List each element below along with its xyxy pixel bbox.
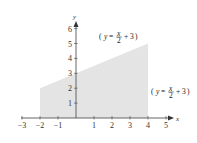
svg-text:=: = xyxy=(161,87,165,96)
x-tick-label: 1 xyxy=(92,121,96,130)
x-axis-arrow-icon xyxy=(168,116,174,121)
annot-rest: + 3 xyxy=(176,87,186,96)
y-tick-label: 4 xyxy=(68,54,72,63)
y-tick-label: 1 xyxy=(68,99,72,108)
x-axis-label: x xyxy=(175,115,180,123)
paren-open: ( xyxy=(99,32,102,41)
x-tick-label: −2 xyxy=(36,121,45,130)
y-axis-label: y xyxy=(72,13,77,21)
x-tick-label: 3 xyxy=(128,121,132,130)
y-axis-arrow-icon xyxy=(74,21,79,27)
shaded-region xyxy=(40,44,148,119)
x-tick-label: −3 xyxy=(18,121,27,130)
paren-close: ) xyxy=(187,87,190,96)
svg-text:=: = xyxy=(109,32,113,41)
y-tick-label: 2 xyxy=(68,84,72,93)
x-tick-label: 2 xyxy=(110,121,114,130)
annotation-right: ( y = x 2 + 3 ) xyxy=(151,84,190,101)
y-tick-label: 5 xyxy=(68,40,72,49)
y-tick-label: 3 xyxy=(68,69,72,78)
paren-open: ( xyxy=(151,87,154,96)
annot-denominator: 2 xyxy=(117,36,121,45)
x-tick-label: 4 xyxy=(146,121,150,130)
x-tick-label: −1 xyxy=(54,121,63,130)
annot-lhs: y xyxy=(155,87,160,96)
paren-close: ) xyxy=(135,32,138,41)
x-tick-label: 5 xyxy=(164,121,168,130)
chart: x y −3−2−112345 123456 ( y = x 2 + 3 ) (… xyxy=(0,0,197,143)
annotation-top: ( y = x 2 + 3 ) xyxy=(99,29,138,46)
annot-denominator: 2 xyxy=(169,91,173,100)
y-tick-label: 6 xyxy=(68,25,72,34)
annot-rest: + 3 xyxy=(124,32,134,41)
annot-lhs: y xyxy=(103,32,108,41)
